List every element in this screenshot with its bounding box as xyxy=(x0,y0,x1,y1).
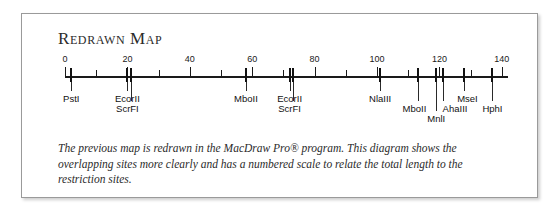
site-leader-line xyxy=(293,82,294,101)
restriction-site-tick xyxy=(491,68,493,82)
restriction-site-tick xyxy=(379,68,381,82)
figure-caption: The previous map is redrawn in the MacDr… xyxy=(58,141,506,188)
restriction-site-tick xyxy=(442,68,444,82)
restriction-site-label: MseI xyxy=(457,93,478,104)
site-leader-line xyxy=(492,82,493,101)
axis-tick xyxy=(377,67,378,76)
site-leader-line xyxy=(246,82,247,91)
axis-tick xyxy=(471,70,472,76)
restriction-site-tick xyxy=(130,68,132,82)
site-leader-line xyxy=(131,82,132,101)
restriction-site-tick xyxy=(435,68,437,82)
site-leader-line xyxy=(464,82,465,91)
axis-tick xyxy=(315,67,316,76)
axis-tick xyxy=(252,67,253,76)
axis-tick xyxy=(65,67,66,76)
axis-tick xyxy=(159,70,160,76)
axis-tick xyxy=(408,70,409,76)
axis-tick xyxy=(96,70,97,76)
axis-tick xyxy=(221,70,222,76)
restriction-site-tick xyxy=(126,68,128,82)
axis-tick xyxy=(346,70,347,76)
restriction-site-label: NlaIII xyxy=(369,93,391,104)
figure-card: Redrawn Map 020406080100120140PstIEcorII… xyxy=(21,13,538,198)
site-leader-line xyxy=(127,82,128,91)
scale-label: 60 xyxy=(247,54,257,64)
restriction-site-label: PstI xyxy=(63,93,79,104)
restriction-site-label: ScrFI xyxy=(116,103,139,114)
scale-label: 20 xyxy=(122,54,132,64)
restriction-site-label: MboII xyxy=(403,103,427,114)
site-leader-line xyxy=(380,82,381,91)
restriction-site-tick xyxy=(245,68,247,82)
axis-tick xyxy=(439,67,440,76)
restriction-map-scale: 020406080100120140PstIEcorIIScrFIMboIIEc… xyxy=(22,14,539,144)
site-leader-line xyxy=(418,82,419,101)
axis-tick xyxy=(190,67,191,76)
restriction-site-label: MnlI xyxy=(427,113,445,124)
scale-label: 100 xyxy=(369,54,384,64)
site-leader-line xyxy=(71,82,72,91)
restriction-site-tick xyxy=(417,68,419,82)
restriction-site-label: ScrFI xyxy=(278,103,301,114)
restriction-site-tick xyxy=(70,68,72,82)
axis-tick xyxy=(283,70,284,76)
scale-label: 120 xyxy=(432,54,447,64)
restriction-site-label: HphI xyxy=(482,103,502,114)
restriction-site-tick xyxy=(289,68,291,82)
restriction-site-label: AhaIII xyxy=(443,103,468,114)
scale-label: 0 xyxy=(62,54,67,64)
scale-label: 80 xyxy=(310,54,320,64)
scale-label: 40 xyxy=(185,54,195,64)
site-leader-line xyxy=(290,82,291,91)
restriction-site-label: MboII xyxy=(234,93,258,104)
site-leader-line xyxy=(443,82,444,101)
site-leader-line xyxy=(436,82,437,111)
restriction-site-tick xyxy=(292,68,294,82)
restriction-site-tick xyxy=(463,68,465,82)
scale-label: 140 xyxy=(494,54,509,64)
axis-tick xyxy=(502,67,503,76)
